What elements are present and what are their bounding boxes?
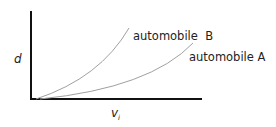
curve-automobile-b xyxy=(36,28,129,99)
curve-automobile-a xyxy=(40,43,193,99)
x-axis-label-subscript: i xyxy=(118,114,120,122)
x-axis-label: vi xyxy=(111,106,120,122)
label-automobile-a: automobile A xyxy=(189,50,266,64)
label-automobile-b: automobile B xyxy=(133,29,213,43)
y-axis-label: d xyxy=(14,52,22,66)
distance-vs-velocity-chart: d vi automobile B automobile A xyxy=(0,0,276,127)
